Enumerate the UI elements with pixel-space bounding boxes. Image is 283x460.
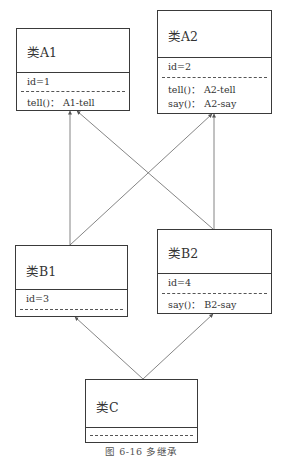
attribute-method-divider <box>20 309 123 310</box>
class-name: 类A1 <box>27 42 57 61</box>
method: tell()： A2-tell <box>168 82 236 96</box>
class-c: 类C <box>85 379 198 443</box>
attribute: id=1 <box>27 76 50 87</box>
name-separator <box>158 57 271 58</box>
arrow-b1-to-a2 <box>70 114 212 245</box>
method: say()： B2-say <box>168 297 236 311</box>
name-separator <box>86 427 197 428</box>
attribute-method-divider <box>162 293 267 294</box>
figure-caption: 图 6-16 多继承 <box>0 444 283 458</box>
method: tell()： A1-tell <box>27 95 95 109</box>
name-separator <box>158 273 271 274</box>
class-b2: 类B2 id=4 say()： B2-say <box>157 229 272 314</box>
attribute-method-divider <box>162 77 267 78</box>
arrow-b2-to-a1 <box>77 111 213 229</box>
class-a1: 类A1 id=1 tell()： A1-tell <box>16 28 130 111</box>
name-separator <box>17 72 129 73</box>
arrow-c-to-b1 <box>75 317 143 379</box>
method: say()： A2-say <box>168 96 236 110</box>
class-name: 类B2 <box>168 243 198 262</box>
name-separator <box>16 289 127 290</box>
attribute-method-divider <box>90 435 193 436</box>
attribute: id=4 <box>168 277 191 288</box>
class-b1: 类B1 id=3 <box>15 245 128 317</box>
attribute: id=2 <box>168 61 191 72</box>
class-name: 类B1 <box>26 261 56 280</box>
class-name: 类A2 <box>168 26 198 45</box>
attribute: id=3 <box>26 293 49 304</box>
arrow-c-to-b2 <box>143 314 213 379</box>
class-name: 类C <box>96 397 119 416</box>
attribute-method-divider <box>21 91 125 92</box>
class-a2: 类A2 id=2 tell()： A2-tell say()： A2-say <box>157 10 272 114</box>
